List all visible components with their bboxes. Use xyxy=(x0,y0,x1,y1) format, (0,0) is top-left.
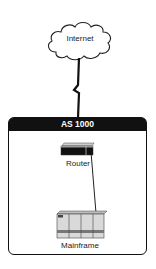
cloud-label: Internet xyxy=(48,34,112,43)
wan-link-lightning xyxy=(74,58,79,118)
mainframe-label: Mainframe xyxy=(50,241,110,250)
router-label: Router xyxy=(55,159,101,168)
network-diagram: AS 1000 xyxy=(0,0,156,269)
mainframe-icon xyxy=(57,211,107,238)
router-icon xyxy=(61,143,94,155)
